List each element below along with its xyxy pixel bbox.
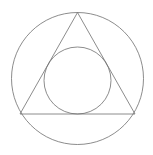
inner-circle [44,47,111,114]
inscribed-triangle [20,13,135,115]
geometry-figure-svg [0,0,153,155]
geometry-figure-canvas [0,0,153,155]
outer-circle [12,13,144,145]
